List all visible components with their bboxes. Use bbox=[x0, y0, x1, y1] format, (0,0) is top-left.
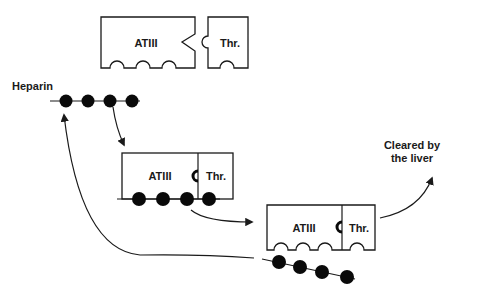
release-arrow bbox=[191, 210, 252, 222]
released-atiii-label: ATIII bbox=[292, 222, 315, 234]
released-thrombin-label: Thr. bbox=[349, 222, 369, 234]
bound-thrombin-label: Thr. bbox=[206, 170, 226, 182]
heparin-bead bbox=[126, 95, 139, 108]
heparin-bead bbox=[82, 95, 95, 108]
heparin-bead bbox=[104, 95, 117, 108]
heparin-bead bbox=[315, 265, 329, 279]
released-heparin-chain bbox=[262, 255, 355, 284]
bind-arrow bbox=[113, 107, 124, 145]
heparin-bead bbox=[156, 192, 170, 206]
cleared-label-line2: the liver bbox=[391, 152, 434, 164]
heparin-bead bbox=[60, 95, 73, 108]
free-atiii-piece: ATIII bbox=[101, 17, 195, 68]
released-complex: ATIII Thr. bbox=[267, 205, 375, 250]
heparin-bead bbox=[180, 192, 194, 206]
bound-atiii-label: ATIII bbox=[148, 170, 171, 182]
heparin-bead bbox=[132, 192, 146, 206]
free-atiii-label: ATIII bbox=[134, 37, 157, 49]
heparin-chain bbox=[50, 95, 140, 108]
heparin-bead bbox=[293, 260, 307, 274]
free-thrombin-label: Thr. bbox=[220, 37, 240, 49]
free-thrombin-piece: Thr. bbox=[202, 17, 248, 68]
heparin-bead bbox=[272, 255, 286, 269]
cleared-label-line1: Cleared by bbox=[384, 139, 441, 151]
heparin-bead bbox=[202, 192, 216, 206]
heparin-mechanism-diagram: ATIII Thr. Heparin ATIII Thr. ATIII Thr. bbox=[0, 0, 481, 295]
clearance-arrow bbox=[380, 178, 432, 218]
bound-complex: ATIII Thr. bbox=[117, 153, 233, 206]
heparin-label: Heparin bbox=[12, 80, 53, 92]
heparin-bead bbox=[340, 270, 354, 284]
